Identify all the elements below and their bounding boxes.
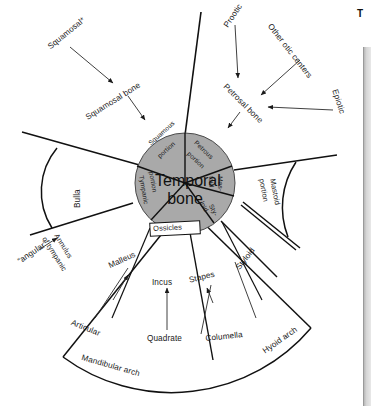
diagram-canvas: Temporal bone Squamous portion Petrous p… [0, 0, 377, 406]
ossicles-label: Ossicles [153, 222, 182, 232]
bulla-wedge-shape [22, 132, 143, 235]
bulla-label: Bulla [73, 189, 82, 208]
leader-lines [95, 262, 256, 334]
scan-edge-bar [364, 47, 371, 406]
incus-label: Incus [152, 278, 172, 287]
center-label-line1: Temporal [155, 172, 215, 190]
core-mastoid-line1: Mas- [217, 176, 225, 191]
quadrate-label: Quadrate [147, 334, 182, 343]
corner-mark: T [357, 8, 363, 19]
squamosal-stem [185, 12, 201, 135]
mastoid-wedge-shape [234, 155, 337, 248]
core-mastoid-line2: toid [208, 176, 215, 187]
